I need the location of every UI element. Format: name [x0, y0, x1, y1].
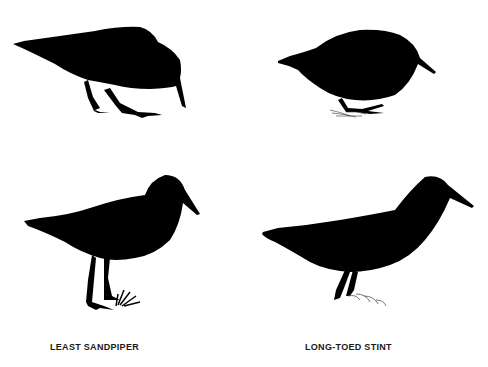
bird-silhouettes-illustration	[0, 0, 488, 367]
caption-least-sandpiper: LEAST SANDPIPER	[50, 342, 139, 352]
bird-silhouette-least-sandpiper-standing	[24, 175, 200, 310]
bird-silhouette-long-toed-stint-standing	[262, 176, 474, 306]
caption-long-toed-stint: LONG-TOED STINT	[305, 342, 392, 352]
bird-silhouette-long-toed-stint-feeding	[278, 30, 436, 117]
bird-silhouette-least-sandpiper-feeding	[13, 27, 186, 118]
